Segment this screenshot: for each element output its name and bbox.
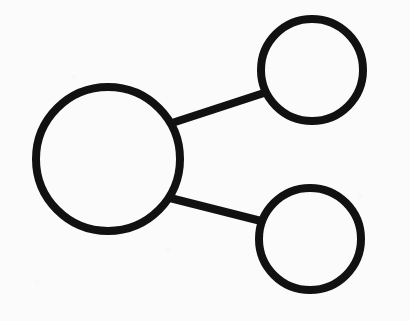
edge-layer bbox=[170, 92, 267, 222]
edge-large-to-top-right[interactable] bbox=[172, 92, 267, 123]
edge-large-to-bottom-right[interactable] bbox=[170, 198, 265, 222]
node-small-bottom-right[interactable] bbox=[259, 188, 361, 290]
diagram-canvas bbox=[0, 0, 410, 321]
node-small-top-right[interactable] bbox=[261, 19, 363, 121]
node-layer bbox=[36, 19, 363, 290]
node-large-left[interactable] bbox=[36, 87, 180, 231]
graph-svg bbox=[0, 0, 410, 321]
